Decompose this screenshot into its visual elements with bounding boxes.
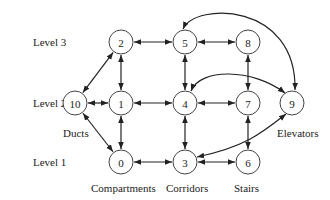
node-label: 1 xyxy=(118,98,124,110)
annotation-stairs: Stairs xyxy=(234,182,259,194)
node-6: 6 xyxy=(236,150,260,174)
level-3-label: Level 3 xyxy=(33,36,67,48)
node-0: 0 xyxy=(109,150,133,174)
level-2-label: Level 2 xyxy=(33,97,66,109)
node-label: 2 xyxy=(118,37,124,49)
node-label: 6 xyxy=(245,157,251,169)
node-7: 7 xyxy=(236,91,260,115)
level-1-label: Level 1 xyxy=(33,156,66,168)
node-2: 2 xyxy=(109,30,133,54)
node-10: 10 xyxy=(63,91,87,115)
node-label: 4 xyxy=(182,98,188,110)
node-label: 3 xyxy=(182,157,188,169)
graph-diagram: Level 3 Level 2 Level 1 012345678910 Duc… xyxy=(0,0,330,200)
node-5: 5 xyxy=(173,30,197,54)
level-labels: Level 3 Level 2 Level 1 xyxy=(33,36,67,168)
node-4: 4 xyxy=(173,91,197,115)
annotation-ducts: Ducts xyxy=(63,127,89,139)
node-label: 9 xyxy=(289,98,295,110)
node-3: 3 xyxy=(173,150,197,174)
node-label: 8 xyxy=(245,37,251,49)
edge-2-10 xyxy=(83,52,113,92)
node-label: 5 xyxy=(182,37,188,49)
edge-4-9 xyxy=(191,74,285,93)
node-label: 0 xyxy=(118,157,124,169)
node-label: 7 xyxy=(245,98,251,110)
annotation-compartments: Compartments xyxy=(91,182,156,194)
annotation-elevators: Elevators xyxy=(277,127,319,139)
node-8: 8 xyxy=(236,30,260,54)
node-label: 10 xyxy=(70,98,82,110)
node-9: 9 xyxy=(280,91,304,115)
edge-5-9 xyxy=(183,13,295,90)
annotation-corridors: Corridors xyxy=(166,182,208,194)
edge-3-9 xyxy=(197,114,286,157)
nodes: 012345678910 xyxy=(63,30,304,174)
node-1: 1 xyxy=(109,91,133,115)
